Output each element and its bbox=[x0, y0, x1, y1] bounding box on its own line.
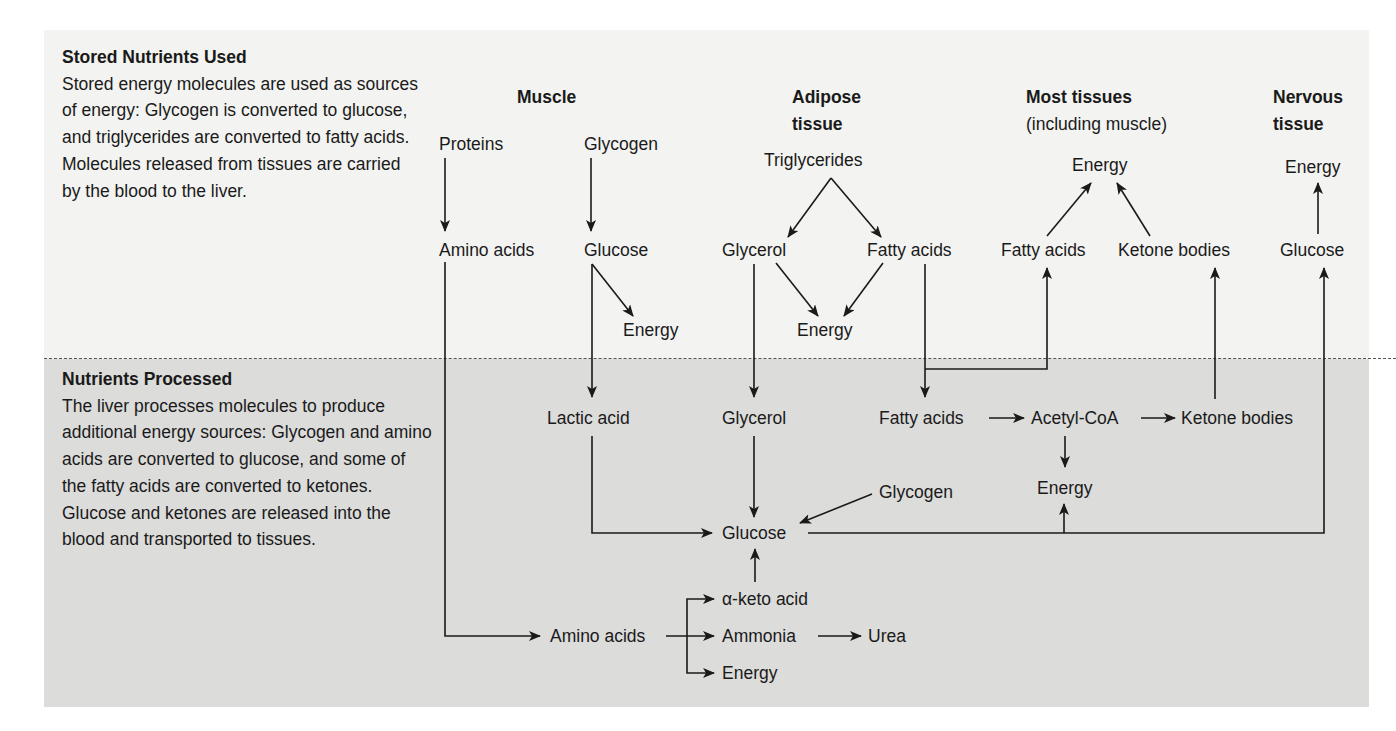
pathway-arrows bbox=[0, 0, 1396, 731]
arrow-amino-to-keto bbox=[687, 599, 714, 636]
arrow-glucose-to-nervous bbox=[808, 268, 1324, 533]
arrow-trig-to-fatty bbox=[831, 178, 881, 237]
arrow-fatty-to-energy-tissues bbox=[1047, 183, 1091, 236]
arrow-ketone-to-energy-tissues bbox=[1117, 183, 1150, 236]
arrow-amino-to-liver-amino bbox=[445, 262, 540, 636]
arrow-lactic-to-glucose bbox=[592, 436, 712, 533]
arrow-glycogen-to-glucose bbox=[800, 494, 872, 523]
arrow-amino-to-energy bbox=[687, 636, 714, 673]
arrow-trig-to-glycerol bbox=[788, 178, 831, 237]
arrow-fatty-to-energy bbox=[844, 263, 883, 316]
arrow-glucose-to-energy bbox=[592, 264, 633, 316]
arrow-glycerol-to-energy bbox=[776, 263, 818, 316]
arrow-fatty-to-tissues bbox=[925, 268, 1047, 369]
